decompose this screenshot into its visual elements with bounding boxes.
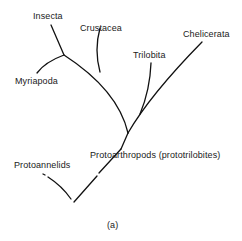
label-insecta: Insecta [33,12,63,21]
label-protoarthropods: Protoarthropods (prototrilobites) [90,151,220,160]
label-trilobita: Trilobita [133,51,166,60]
label-protoannelids: Protoannelids [14,161,70,170]
label-chelicerata: Chelicerata [183,30,230,39]
label-myriapoda: Myriapoda [15,77,58,86]
branch-main-arc [37,55,128,133]
branch-protoannelids [43,174,71,199]
branch-crustacea [97,28,100,72]
branch-insecta [51,25,64,55]
figure-caption: (a) [107,221,118,230]
label-crustacea: Crustacea [80,24,122,33]
branch-trunk [121,133,128,149]
